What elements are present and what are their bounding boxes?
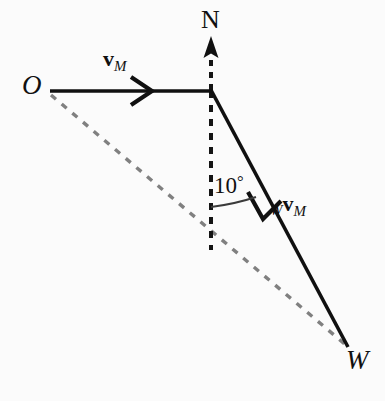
angle-label: 10° xyxy=(214,174,244,197)
vector-label-wvm-subscript: M xyxy=(293,203,305,219)
vector-label-vm-symbol: v xyxy=(103,46,114,71)
point-label-west: W xyxy=(346,347,369,374)
vector-diagram-canvas xyxy=(0,0,385,401)
vector-label-wvm-prefix: W xyxy=(270,202,282,218)
angle-arc xyxy=(211,197,256,207)
vector-label-vm: vM xyxy=(103,48,126,74)
vector-label-wvm-symbol: v xyxy=(282,191,293,216)
degree-symbol: ° xyxy=(237,172,244,191)
point-label-north: N xyxy=(201,7,220,33)
dashed-resultant-line xyxy=(51,95,347,346)
vector-label-wvm: WvM xyxy=(270,193,306,219)
north-arrowhead-icon xyxy=(204,36,219,58)
vector-label-vm-subscript: M xyxy=(114,58,126,74)
point-label-origin: O xyxy=(22,72,42,99)
angle-value: 10 xyxy=(214,173,237,198)
